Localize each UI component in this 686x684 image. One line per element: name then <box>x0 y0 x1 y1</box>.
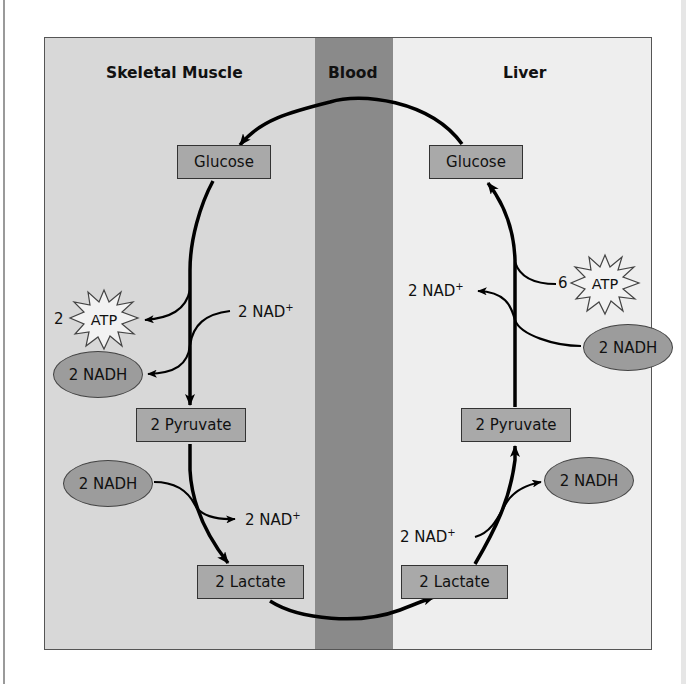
arrow-liver-atp-in <box>515 262 556 284</box>
arrow-muscle-lactate-to-liver-lactate <box>270 597 434 619</box>
arrow-liver-lactate-to-pyruvate <box>475 446 515 564</box>
liver-lactate-box: 2 Lactate <box>401 565 508 599</box>
arrow-muscle-atp <box>145 290 190 320</box>
muscle-nadh-product: 2 NADH <box>53 351 143 398</box>
liver-nad-reactant: 2 NAD+ <box>400 527 456 546</box>
muscle-nad-reactant-charge: + <box>285 302 293 313</box>
muscle-lactate-box: 2 Lactate <box>197 565 304 599</box>
liver-pyruvate-box: 2 Pyruvate <box>461 408 571 442</box>
liver-nad-reactant-text: 2 NAD <box>400 528 447 546</box>
arrow-liver-glucose-to-muscle-glucose <box>240 98 462 145</box>
liver-nad-product-charge: + <box>455 281 463 292</box>
muscle-pyruvate-box: 2 Pyruvate <box>136 408 246 442</box>
muscle-nad-product-text: 2 NAD <box>245 511 292 529</box>
liver-atp-label: ATP <box>592 276 618 292</box>
muscle-nad-product-charge: + <box>292 510 300 521</box>
muscle-atp-label: ATP <box>91 312 117 328</box>
muscle-nad-reactant-text: 2 NAD <box>238 303 285 321</box>
liver-nadh-reactant: 2 NADH <box>583 324 673 371</box>
muscle-nadh-reactant: 2 NADH <box>63 460 153 507</box>
muscle-atp-count: 2 <box>54 310 64 328</box>
arrow-liver-pyruvate-to-glucose <box>488 183 515 407</box>
liver-glucose-box: Glucose <box>429 145 523 179</box>
liver-nad-product-text: 2 NAD <box>408 282 455 300</box>
liver-nad-reactant-charge: + <box>447 527 455 538</box>
liver-nadh-product: 2 NADH <box>544 457 634 504</box>
arrow-muscle-pyruvate-to-lactate <box>190 444 228 563</box>
arrow-muscle-glucose-to-pyruvate <box>190 181 213 405</box>
muscle-nad-reactant: 2 NAD+ <box>238 302 294 321</box>
muscle-glucose-box: Glucose <box>177 145 271 179</box>
liver-nad-product: 2 NAD+ <box>408 281 464 300</box>
liver-atp-count: 6 <box>558 274 568 292</box>
arrow-liver-nadh-to-nad <box>478 291 581 346</box>
muscle-nad-product: 2 NAD+ <box>245 510 301 529</box>
